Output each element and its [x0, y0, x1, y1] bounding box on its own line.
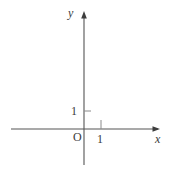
x-axis-arrowhead: [153, 126, 161, 132]
origin-label: O: [73, 131, 82, 143]
y-tick-label-1: 1: [71, 105, 77, 117]
y-axis-arrowhead: [81, 11, 87, 19]
x-tick-label-1: 1: [97, 133, 103, 145]
coordinate-axes-figure: y x 1 O 1: [0, 0, 169, 174]
axes-svg: [0, 0, 169, 174]
x-axis-label: x: [155, 133, 160, 145]
y-axis-label: y: [68, 7, 73, 19]
